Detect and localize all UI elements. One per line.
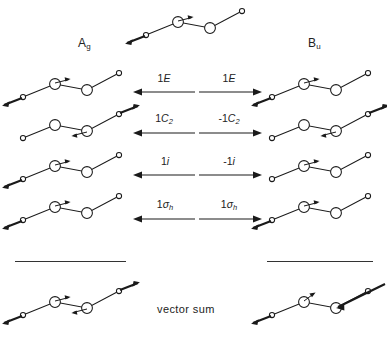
operation-label-left-4: 1σh: [141, 198, 189, 212]
molecule-left-row2: [13, 105, 133, 147]
symbol-right-1: E: [228, 72, 235, 84]
operation-label-right-1: 1E: [205, 72, 253, 86]
figure-canvas: Ag Bu 1E: [0, 0, 387, 340]
species-left-sub: g: [86, 42, 91, 51]
subscript-right-2: 2: [235, 117, 239, 126]
arrow-right-1: [199, 86, 262, 100]
arrow-right-2: [199, 127, 262, 141]
molecule-sum-ag: [13, 282, 133, 324]
displacement-vector-thick-right: [120, 281, 140, 290]
subscript-left-4: h: [169, 203, 173, 212]
operation-label-left-1: 1E: [140, 72, 188, 86]
species-label-bu: Bu: [308, 36, 321, 51]
character-right-2: -1: [218, 112, 227, 124]
molecule-right-row2: [262, 105, 382, 147]
operation-label-right-2: -1C2: [203, 112, 255, 126]
sum-rule-left: [15, 261, 126, 262]
displacement-vector-thick: [125, 36, 145, 45]
displacement-vector-thick-left: [251, 316, 271, 325]
molecule-right-row4: [262, 187, 382, 229]
operation-label-right-4: 1σh: [205, 198, 253, 212]
arrow-left-1: [133, 86, 196, 100]
character-right-3: -1: [223, 155, 232, 167]
displacement-vector-thick: [120, 104, 140, 113]
displacement-vector-thick: [2, 221, 22, 230]
molecule-left-row1: [13, 64, 133, 106]
displacement-vector-thick-right-in: [336, 284, 385, 310]
arrow-right-3: [199, 169, 262, 183]
molecule-right-row3: [262, 146, 382, 188]
operation-label-left-3: 1i: [143, 155, 187, 169]
sum-rule-right: [267, 261, 373, 262]
symbol-left-3: i: [167, 155, 169, 167]
arrow-left-2: [133, 127, 196, 141]
molecule-left-row4: [13, 187, 133, 229]
species-label-ag: Ag: [78, 36, 91, 51]
symbol-right-3: i: [233, 155, 235, 167]
operation-label-right-3: -1i: [206, 155, 252, 169]
subscript-left-2: 2: [169, 117, 173, 126]
molecule-left-row3: [13, 146, 133, 188]
symbol-left-2: C: [161, 112, 169, 124]
displacement-vector-thick: [369, 104, 387, 113]
molecule-sum-bu: [262, 282, 382, 324]
arrow-left-3: [133, 169, 196, 183]
species-right-sub: u: [316, 42, 321, 51]
arrow-right-4: [199, 213, 262, 227]
molecule-top-parent: [136, 2, 256, 44]
arrow-left-4: [133, 213, 196, 227]
subscript-right-4: h: [233, 203, 237, 212]
displacement-vector-thick-left: [2, 316, 22, 325]
operation-label-left-2: 1C2: [140, 112, 188, 126]
vector-sum-label: vector sum: [157, 303, 215, 315]
symbol-left-1: E: [163, 72, 170, 84]
molecule-right-row1: [262, 64, 382, 106]
